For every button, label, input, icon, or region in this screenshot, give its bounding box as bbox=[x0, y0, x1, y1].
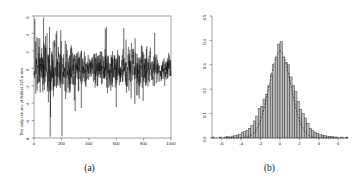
timeseries-line bbox=[34, 18, 171, 137]
figure-two-panel: The daily returns of Nikkei 225 index 02… bbox=[0, 0, 359, 194]
panel-a-plot: 02004006008001000-8-6-4-20246 bbox=[0, 0, 179, 160]
histogram-bar bbox=[324, 136, 326, 138]
y-tick-label: 4 bbox=[25, 33, 30, 36]
x-tick-label: 200 bbox=[58, 141, 66, 146]
histogram-bar bbox=[251, 125, 253, 138]
histogram-bar bbox=[273, 65, 275, 138]
x-tick-label: 0 bbox=[279, 141, 282, 146]
panel-b-histogram: Density -6-4-202460.00.10.20.30.40.5 (b) bbox=[180, 0, 359, 194]
histogram-bar bbox=[319, 135, 321, 138]
histogram-bar bbox=[239, 134, 241, 138]
x-tick-label: 600 bbox=[113, 141, 121, 146]
y-tick-label: -6 bbox=[25, 120, 30, 124]
y-tick-label: 0.3 bbox=[202, 63, 207, 69]
panel-a-timeseries: The daily returns of Nikkei 225 index 02… bbox=[0, 0, 179, 194]
histogram-bar bbox=[241, 133, 243, 138]
y-tick-label: 2 bbox=[25, 51, 30, 54]
histogram-bar bbox=[268, 86, 270, 138]
panel-b-plot: -6-4-202460.00.10.20.30.40.5 bbox=[180, 0, 359, 160]
x-tick-label: 2 bbox=[298, 141, 301, 146]
histogram-bar bbox=[307, 123, 309, 138]
y-tick-label: 0 bbox=[25, 68, 30, 71]
y-tick-label: -4 bbox=[25, 102, 30, 106]
histogram-bar bbox=[270, 75, 272, 138]
histogram-bar bbox=[261, 106, 263, 138]
panel-a-frame bbox=[34, 16, 171, 138]
panel-a-caption: (a) bbox=[0, 163, 179, 173]
histogram-bar bbox=[297, 101, 299, 138]
y-tick-label: 6 bbox=[25, 16, 30, 19]
histogram-bar bbox=[278, 44, 280, 138]
histogram-bar bbox=[316, 134, 318, 138]
y-tick-label: -8 bbox=[25, 137, 30, 141]
histogram-bar bbox=[258, 108, 260, 138]
x-tick-label: 800 bbox=[140, 141, 148, 146]
histogram-bar bbox=[295, 92, 297, 138]
y-tick-label: 0.1 bbox=[202, 112, 207, 118]
histogram-bar bbox=[302, 114, 304, 138]
histogram-bar bbox=[285, 62, 287, 138]
histogram-bar bbox=[275, 57, 277, 138]
histogram-bar bbox=[287, 65, 289, 138]
histogram-bar bbox=[290, 77, 292, 138]
histogram-bar bbox=[236, 135, 238, 138]
histogram-bars bbox=[212, 42, 348, 138]
y-tick-label: -2 bbox=[25, 85, 30, 89]
y-tick-label: 0.4 bbox=[202, 38, 207, 44]
histogram-bar bbox=[309, 128, 311, 138]
histogram-bar bbox=[321, 135, 323, 138]
panel-b-caption: (b) bbox=[180, 163, 359, 173]
y-tick-label: 0.2 bbox=[202, 87, 207, 93]
y-tick-label: 0.0 bbox=[202, 136, 207, 142]
histogram-bar bbox=[280, 42, 282, 138]
x-tick-label: 0 bbox=[33, 141, 36, 146]
x-tick-label: 6 bbox=[337, 141, 340, 146]
x-tick-label: 400 bbox=[85, 141, 93, 146]
histogram-bar bbox=[314, 132, 316, 138]
histogram-bar bbox=[244, 132, 246, 138]
x-tick-label: 1000 bbox=[166, 141, 176, 146]
x-tick-label: -4 bbox=[239, 141, 243, 146]
histogram-bar bbox=[282, 57, 284, 138]
histogram-bar bbox=[253, 121, 255, 138]
x-tick-label: -2 bbox=[259, 141, 263, 146]
x-tick-label: 4 bbox=[318, 141, 321, 146]
y-tick-label: 0.5 bbox=[202, 14, 207, 20]
histogram-bar bbox=[304, 118, 306, 138]
histogram-bar bbox=[234, 136, 236, 138]
x-tick-label: -6 bbox=[220, 141, 224, 146]
